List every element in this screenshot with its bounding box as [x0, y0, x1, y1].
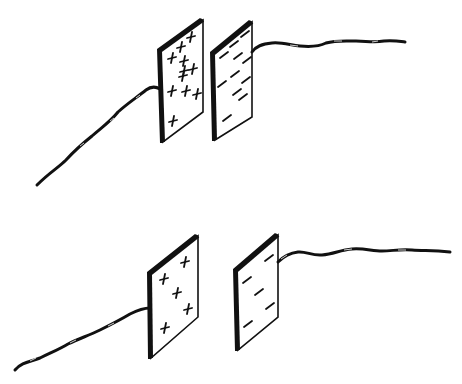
top-left-wire: [37, 87, 160, 185]
bottom-negative-plate: [233, 233, 278, 351]
top-negative-plate: [210, 20, 252, 141]
bottom-right-wire: [278, 249, 450, 262]
capacitor-diagram: Charged parallel plates connected by wir…: [0, 0, 462, 384]
top-positive-plate: [157, 18, 203, 143]
bottom-panel: [15, 233, 450, 370]
bottom-positive-plate: [147, 234, 198, 359]
top-right-wire: [252, 41, 405, 52]
bottom-left-wire: [15, 308, 150, 370]
top-panel: [37, 18, 405, 185]
